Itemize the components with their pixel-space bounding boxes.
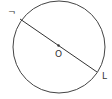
- circle: [13, 1, 105, 93]
- center-point: [57, 44, 59, 46]
- center-label: O: [55, 49, 62, 59]
- endpoint-label-top-left: ¬: [8, 7, 16, 17]
- circle-diagram: O ¬ L: [0, 0, 112, 99]
- endpoint-label-bottom-right: L: [102, 71, 107, 81]
